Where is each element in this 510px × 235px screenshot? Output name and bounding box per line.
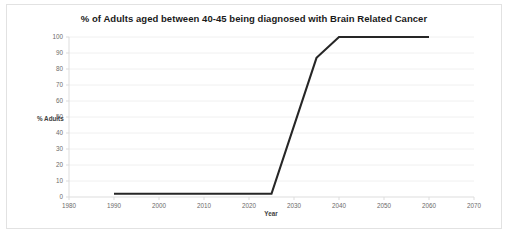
x-axis-ticks-group: 1980199020002010202020302040205020602070 bbox=[62, 197, 482, 209]
x-tick-label: 2050 bbox=[377, 202, 392, 209]
x-tick-label: 1990 bbox=[107, 202, 122, 209]
y-tick-label: 90 bbox=[56, 49, 64, 56]
x-tick-label: 2020 bbox=[242, 202, 257, 209]
y-tick-label: 40 bbox=[56, 129, 64, 136]
chart-container: % of Adults aged between 40-45 being dia… bbox=[6, 4, 502, 229]
x-tick-label: 2060 bbox=[422, 202, 437, 209]
x-tick-label: 1980 bbox=[62, 202, 77, 209]
x-tick-label: 2010 bbox=[197, 202, 212, 209]
y-tick-label: 70 bbox=[56, 81, 64, 88]
data-series-line bbox=[114, 37, 429, 194]
y-tick-label: 10 bbox=[56, 177, 64, 184]
y-tick-label: 80 bbox=[56, 65, 64, 72]
y-tick-label: 20 bbox=[56, 161, 64, 168]
x-axis-title: Year bbox=[264, 210, 278, 217]
x-tick-label: 2000 bbox=[152, 202, 167, 209]
x-tick-label: 2040 bbox=[332, 202, 347, 209]
y-tick-label: 100 bbox=[52, 33, 63, 40]
gridlines-group bbox=[69, 37, 474, 181]
y-tick-label: 60 bbox=[56, 97, 64, 104]
y-axis-title: % Adults bbox=[37, 115, 64, 122]
y-tick-label: 30 bbox=[56, 145, 64, 152]
x-tick-label: 2070 bbox=[467, 202, 482, 209]
x-tick-label: 2030 bbox=[287, 202, 302, 209]
y-tick-label: 0 bbox=[59, 193, 63, 200]
line-chart-plot: 0102030405060708090100 19801990200020102… bbox=[7, 5, 503, 230]
